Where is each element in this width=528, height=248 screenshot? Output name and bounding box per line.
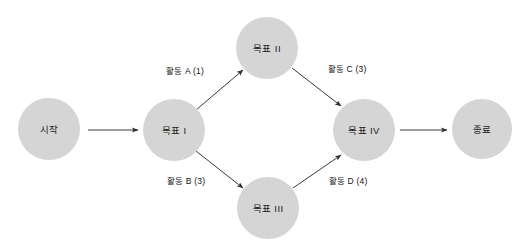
edge-label-goal1-to-goal2: 활동 A (1): [166, 64, 204, 76]
edge-goal1-to-goal2: [196, 70, 243, 110]
node-label-goal3: 목표 III: [253, 201, 284, 215]
node-label-goal1: 목표 I: [162, 123, 187, 137]
edge-label-goal1-to-goal3: 활동 B (3): [167, 174, 205, 186]
node-label-start: 시작: [40, 122, 59, 136]
node-start[interactable]: 시작: [18, 98, 80, 160]
node-goal1[interactable]: 목표 I: [143, 99, 205, 161]
node-end[interactable]: 종료: [452, 99, 512, 159]
node-goal4[interactable]: 목표 IV: [333, 99, 395, 161]
node-label-goal2: 목표 II: [253, 41, 281, 55]
diagram-canvas: 시작목표 I목표 II목표 III목표 IV종료 활동 A (1)활동 B (3…: [0, 0, 528, 248]
node-goal3[interactable]: 목표 III: [237, 177, 299, 239]
node-goal2[interactable]: 목표 II: [236, 17, 298, 79]
node-label-end: 종료: [473, 122, 492, 136]
edge-label-goal3-to-goal4: 활동 D (4): [329, 174, 368, 186]
edge-label-goal2-to-goal4: 활동 C (3): [328, 62, 367, 74]
node-label-goal4: 목표 IV: [348, 123, 380, 137]
